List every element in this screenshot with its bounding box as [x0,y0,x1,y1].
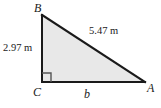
hypotenuse-measure-label: 5.47 m [89,26,118,37]
horizontal-leg-label: b [84,88,90,100]
vertex-label-b: B [34,2,41,14]
triangle-graphic [0,0,161,108]
vertex-label-c: C [33,86,41,98]
vertical-leg-measure-label: 2.97 m [3,43,32,54]
vertex-label-a: A [147,82,154,94]
triangle-figure: B C A 2.97 m 5.47 m b [0,0,161,108]
